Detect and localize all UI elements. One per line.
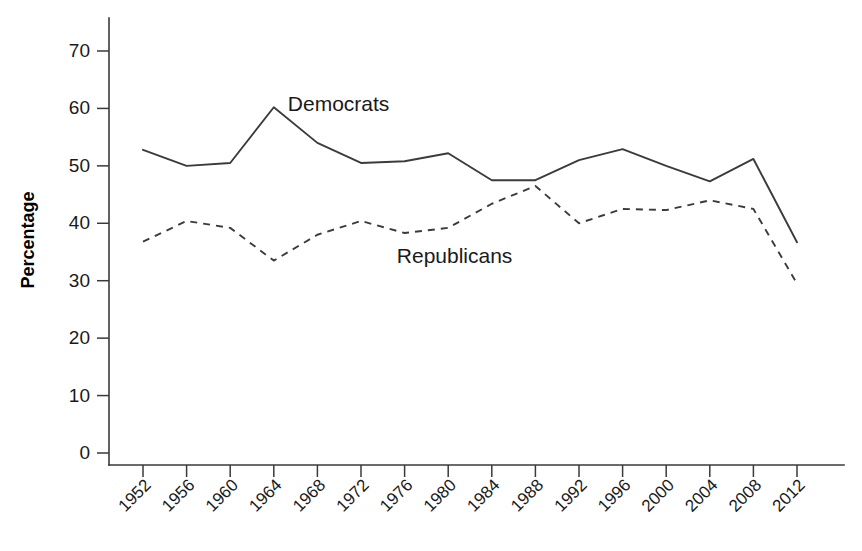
x-tick-label: 2008 xyxy=(725,475,765,515)
y-tick-label: 30 xyxy=(69,270,90,291)
x-tick-label: 2000 xyxy=(638,475,678,515)
y-tick-label: 50 xyxy=(69,155,90,176)
x-tick-group: 1952195619601964196819721976198019841988… xyxy=(115,465,809,516)
series-label-democrats: Democrats xyxy=(288,92,390,115)
y-tick-label: 0 xyxy=(79,442,90,463)
y-tick-group: 010203040506070 xyxy=(69,40,109,463)
series-label-republicans: Republicans xyxy=(397,244,513,267)
x-tick-label: 1964 xyxy=(245,475,285,515)
x-tick-label: 1968 xyxy=(289,475,329,515)
x-tick-label: 1980 xyxy=(420,475,460,515)
y-tick-label: 40 xyxy=(69,212,90,233)
x-tick-label: 1988 xyxy=(507,475,547,515)
x-tick-label: 2004 xyxy=(681,475,721,515)
series-line-republicans xyxy=(143,186,797,284)
series-annotation-group: DemocratsRepublicans xyxy=(288,92,513,267)
x-tick-label: 1976 xyxy=(376,475,416,515)
x-tick-label: 1972 xyxy=(333,475,373,515)
x-tick-label: 1992 xyxy=(551,475,591,515)
y-tick-label: 60 xyxy=(69,97,90,118)
y-tick-label: 10 xyxy=(69,385,90,406)
series-line-democrats xyxy=(143,107,797,242)
chart-container: Percentage 010203040506070 1952195619601… xyxy=(0,0,862,551)
axes xyxy=(109,18,844,465)
x-tick-label: 1996 xyxy=(594,475,634,515)
x-tick-label: 1956 xyxy=(158,475,198,515)
x-tick-label: 1952 xyxy=(115,475,155,515)
y-tick-label: 20 xyxy=(69,327,90,348)
x-tick-label: 1984 xyxy=(463,475,503,515)
y-tick-label: 70 xyxy=(69,40,90,61)
x-tick-label: 1960 xyxy=(202,475,242,515)
y-axis-title: Percentage xyxy=(18,191,38,288)
x-tick-label: 2012 xyxy=(769,475,809,515)
line-chart-svg: Percentage 010203040506070 1952195619601… xyxy=(0,0,862,551)
